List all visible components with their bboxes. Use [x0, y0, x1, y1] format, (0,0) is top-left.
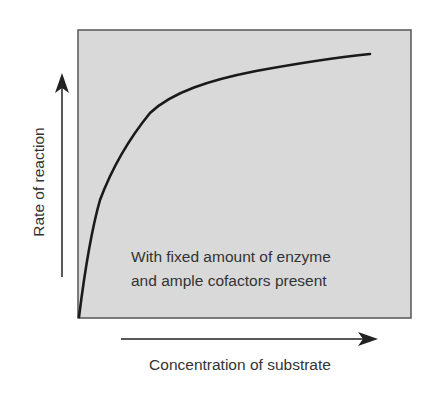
y-axis-arrow-icon: [55, 73, 69, 277]
annotation-line-2: and ample cofactors present: [131, 272, 327, 289]
x-axis-arrow-icon: [121, 332, 378, 346]
x-axis-label: Concentration of substrate: [149, 356, 331, 373]
annotation-line-1: With fixed amount of enzyme: [131, 248, 331, 265]
chart-figure: With fixed amount of enzyme and ample co…: [0, 0, 440, 398]
y-axis-label: Rate of reaction: [30, 127, 47, 236]
